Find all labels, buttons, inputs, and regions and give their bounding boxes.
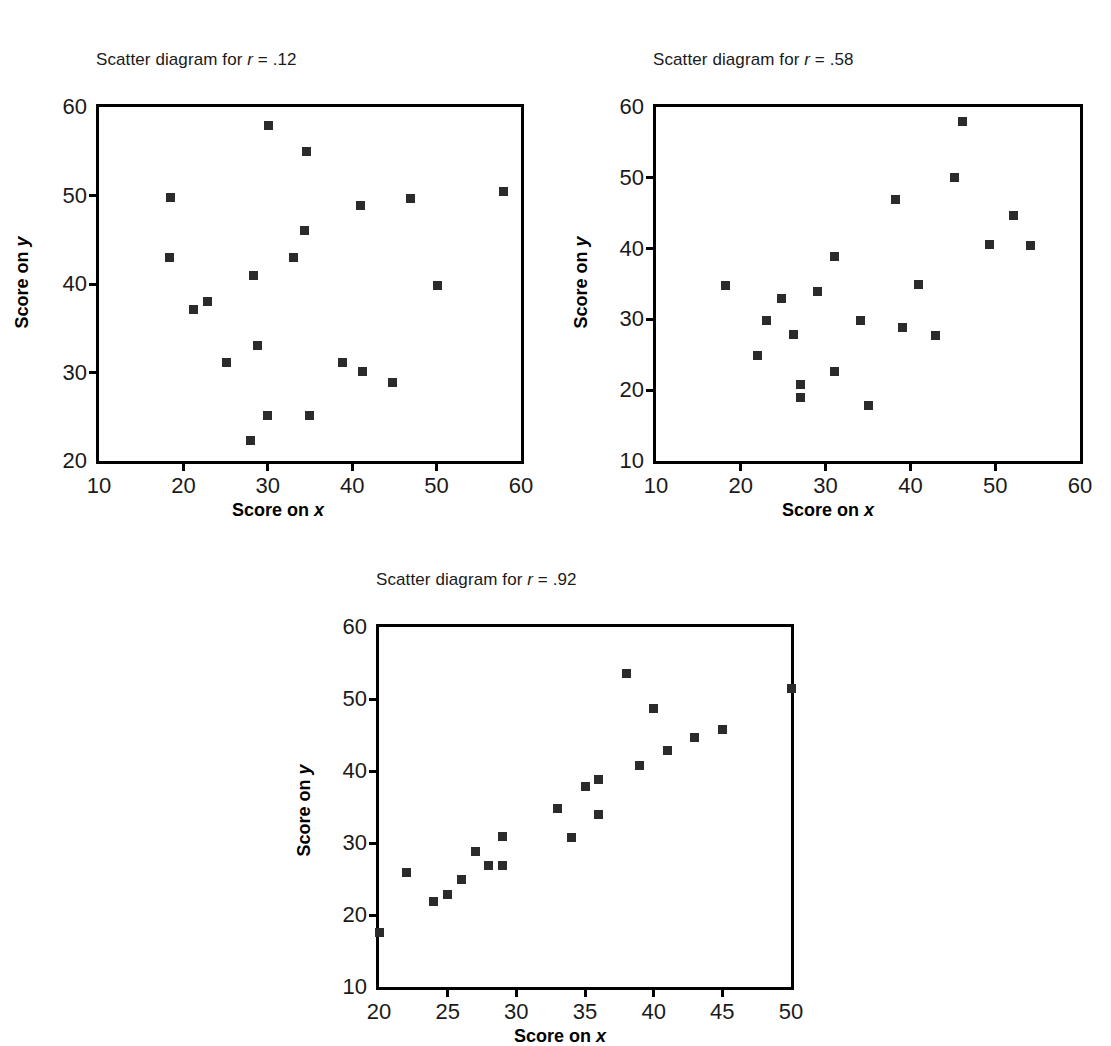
x-axis-tick-label: 10 bbox=[87, 473, 111, 499]
y-axis-tick-label: 40 bbox=[620, 236, 644, 262]
scatter-point bbox=[388, 378, 397, 387]
chart-title: Scatter diagram for r = .92 bbox=[376, 570, 577, 590]
plot-area: 2030405060102030405060 bbox=[99, 107, 521, 461]
scatter-point bbox=[166, 193, 175, 202]
scatter-point bbox=[264, 121, 273, 130]
scatter-point bbox=[553, 804, 562, 813]
x-axis-tick-label: 20 bbox=[367, 999, 391, 1025]
y-axis-tick bbox=[89, 283, 99, 286]
y-axis-tick bbox=[646, 176, 656, 179]
scatter-panel-r-092: Scatter diagram for r = .92 102030405060… bbox=[270, 560, 850, 1046]
y-axis-title-prefix: Score on bbox=[12, 246, 32, 328]
y-axis-tick-label: 10 bbox=[343, 974, 367, 1000]
x-axis-tick bbox=[652, 987, 655, 997]
x-axis-title-symbol: x bbox=[596, 1026, 606, 1046]
x-axis-tick bbox=[351, 461, 354, 471]
y-axis-title-symbol: y bbox=[12, 236, 32, 246]
scatter-point bbox=[787, 684, 796, 693]
y-axis-tick-label: 20 bbox=[343, 902, 367, 928]
scatter-point bbox=[594, 775, 603, 784]
scatter-point bbox=[471, 847, 480, 856]
scatter-point bbox=[789, 330, 798, 339]
scatter-point bbox=[498, 832, 507, 841]
y-axis-tick bbox=[369, 770, 379, 773]
scatter-point bbox=[635, 761, 644, 770]
y-axis-tick bbox=[646, 389, 656, 392]
scatter-point bbox=[762, 316, 771, 325]
chart-title-prefix: Scatter diagram for bbox=[653, 50, 804, 69]
y-axis-tick bbox=[369, 698, 379, 701]
y-axis-title-symbol: y bbox=[294, 764, 314, 774]
y-axis-tick-label: 50 bbox=[343, 686, 367, 712]
y-axis-tick bbox=[89, 194, 99, 197]
x-axis-title: Score on x bbox=[514, 1026, 606, 1046]
scatter-point bbox=[433, 281, 442, 290]
scatter-panel-r-012: Scatter diagram for r = .12 203040506010… bbox=[0, 40, 556, 510]
y-axis-tick-label: 40 bbox=[63, 271, 87, 297]
chart-title-suffix: = .58 bbox=[810, 50, 854, 69]
scatter-point bbox=[498, 861, 507, 870]
scatter-point bbox=[429, 897, 438, 906]
x-axis-tick bbox=[824, 461, 827, 471]
scatter-point bbox=[457, 875, 466, 884]
scatter-point bbox=[406, 194, 415, 203]
x-axis-tick-label: 50 bbox=[983, 473, 1007, 499]
x-axis-tick-label: 40 bbox=[898, 473, 922, 499]
x-axis-tick-label: 30 bbox=[256, 473, 280, 499]
chart-title: Scatter diagram for r = .12 bbox=[96, 50, 297, 70]
y-axis-title-symbol: y bbox=[571, 236, 591, 246]
scatter-point bbox=[898, 323, 907, 332]
scatter-point bbox=[721, 281, 730, 290]
scatter-point bbox=[856, 316, 865, 325]
scatter-point bbox=[1026, 241, 1035, 250]
scatter-point bbox=[499, 187, 508, 196]
scatter-point bbox=[950, 173, 959, 182]
x-axis-tick-label: 50 bbox=[779, 999, 803, 1025]
x-axis-tick-label: 20 bbox=[729, 473, 753, 499]
scatter-point bbox=[813, 287, 822, 296]
scatter-point bbox=[985, 240, 994, 249]
y-axis-title: Score on y bbox=[12, 236, 33, 328]
scatter-point bbox=[594, 810, 603, 819]
scatter-panel-r-058: Scatter diagram for r = .58 102030405060… bbox=[545, 40, 1111, 510]
scatter-point bbox=[718, 725, 727, 734]
scatter-point bbox=[931, 331, 940, 340]
x-axis-tick bbox=[435, 461, 438, 471]
x-axis-tick-label: 40 bbox=[641, 999, 665, 1025]
chart-title-suffix: = .12 bbox=[253, 50, 297, 69]
y-axis-tick-label: 30 bbox=[343, 830, 367, 856]
x-axis-title-prefix: Score on bbox=[782, 500, 864, 520]
y-axis-tick-label: 10 bbox=[620, 448, 644, 474]
scatter-point bbox=[796, 393, 805, 402]
scatter-point bbox=[649, 704, 658, 713]
chart-title-prefix: Scatter diagram for bbox=[376, 570, 527, 589]
x-axis-tick bbox=[909, 461, 912, 471]
scatter-point bbox=[246, 436, 255, 445]
x-axis-tick bbox=[994, 461, 997, 471]
scatter-point bbox=[402, 868, 411, 877]
plot-frame: 102030405060102030405060 bbox=[653, 104, 1083, 464]
scatter-point bbox=[263, 411, 272, 420]
scatter-point bbox=[830, 367, 839, 376]
scatter-point bbox=[189, 305, 198, 314]
scatter-point bbox=[622, 669, 631, 678]
scatter-point bbox=[338, 358, 347, 367]
scatter-point bbox=[830, 252, 839, 261]
y-axis-tick-label: 30 bbox=[63, 360, 87, 386]
x-axis-tick bbox=[446, 987, 449, 997]
y-axis-tick-label: 20 bbox=[63, 448, 87, 474]
scatter-point bbox=[1009, 211, 1018, 220]
scatter-point bbox=[356, 201, 365, 210]
y-axis-tick bbox=[646, 318, 656, 321]
y-axis-title-prefix: Score on bbox=[571, 246, 591, 328]
scatter-point bbox=[165, 253, 174, 262]
x-axis-tick bbox=[721, 987, 724, 997]
x-axis-title-symbol: x bbox=[314, 500, 324, 520]
y-axis-tick-label: 50 bbox=[63, 183, 87, 209]
scatter-point bbox=[484, 861, 493, 870]
x-axis-tick-label: 40 bbox=[340, 473, 364, 499]
y-axis-tick bbox=[89, 371, 99, 374]
scatter-point bbox=[289, 253, 298, 262]
scatter-point bbox=[253, 341, 262, 350]
scatter-point bbox=[891, 195, 900, 204]
